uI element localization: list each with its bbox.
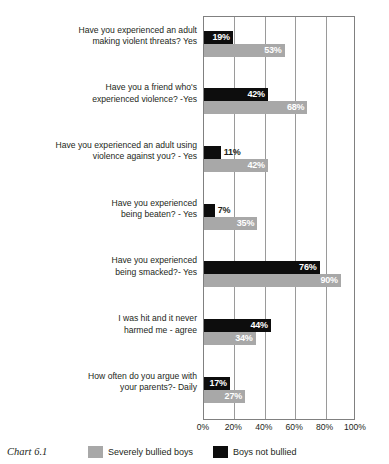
bar-dark[interactable]: 76% [204,261,320,274]
bar-wrapper-dark: 19% [204,31,354,44]
legend-swatch-light [88,446,103,458]
bar-light[interactable]: 34% [204,332,256,345]
bar-value-label: 76% [299,261,316,274]
category-label: Have you experienced an adult usingviole… [17,140,197,163]
bar-value-label: 42% [247,159,264,172]
x-tick-label-80pct: 80% [316,422,333,432]
bar-group: 76%90% [204,248,354,306]
bar-wrapper-light: 34% [204,332,354,345]
x-tick-label-20pct: 20% [225,422,242,432]
category-label-line-1: I was hit and it never [17,313,197,325]
category-label-line-2: experienced violence? -Yes [17,94,197,106]
category-label: Have you experienced an adultmaking viol… [17,25,197,48]
category-label: Have you experiencedbeing beaten? - Yes [17,198,197,221]
bar-light[interactable]: 42% [204,159,268,172]
x-tick-label-100pct: 100% [344,422,366,432]
bar-value-label: 7% [218,204,231,217]
chart-footer: Chart 6.1 Severely bullied boys Boys not… [0,443,389,464]
category-label-line-2: harmed me - agree [17,325,197,337]
bar-dark[interactable]: 7% [204,204,215,217]
bar-wrapper-dark: 42% [204,88,354,101]
bar-light[interactable]: 35% [204,217,257,230]
bar-value-label: 11% [224,146,241,159]
bar-wrapper-light: 42% [204,159,354,172]
bar-value-label: 68% [287,101,304,114]
bar-light[interactable]: 90% [204,274,341,287]
category-label: How often do you argue withyour parents?… [17,371,197,394]
category-label-line-1: Have you experienced an adult using [17,140,197,152]
bar-dark[interactable]: 44% [204,319,271,332]
bar-wrapper-light: 35% [204,217,354,230]
x-axis: 0%20%40%60%80%100% [203,422,355,436]
bar-dark[interactable]: 19% [204,31,233,44]
x-tick-label-0pct: 0% [197,422,209,432]
category-label-line-2: being beaten? - Yes [17,209,197,221]
bar-value-label: 35% [237,217,254,230]
bar-dark[interactable]: 11% [204,146,221,159]
category-label-line-2: your parents?- Daily [17,382,197,394]
bar-group: 42%68% [204,75,354,133]
bar-value-label: 42% [247,88,264,101]
legend-entry-severely-bullied-boys: Severely bullied boys [88,445,193,458]
bar-wrapper-light: 53% [204,44,354,57]
plot-area: 19%53%42%68%11%42%7%35%76%90%44%34%17%27… [203,16,355,420]
category-label: Have you a friend who'sexperienced viole… [17,82,197,105]
bar-light[interactable]: 68% [204,101,307,114]
bar-value-label: 90% [320,274,337,287]
legend-label-boys-not-bullied: Boys not bullied [233,447,297,457]
chart-caption: Chart 6.1 [7,446,47,457]
bar-wrapper-dark: 76% [204,261,354,274]
bar-light[interactable]: 53% [204,44,285,57]
bar-group: 17%27% [204,363,354,421]
bar-group: 19%53% [204,17,354,75]
category-label-line-1: How often do you argue with [17,371,197,383]
bar-value-label: 17% [209,377,226,390]
bar-value-label: 34% [235,332,252,345]
category-label-line-2: being smacked?- Yes [17,267,197,279]
bar-wrapper-dark: 17% [204,377,354,390]
legend-label-severely-bullied-boys: Severely bullied boys [108,447,193,457]
bar-group: 11%42% [204,132,354,190]
bar-wrapper-light: 90% [204,274,354,287]
bar-wrapper-dark: 11% [204,146,354,159]
x-tick-label-40pct: 40% [255,422,272,432]
bar-value-label: 44% [250,319,267,332]
bar-wrapper-light: 68% [204,101,354,114]
bar-value-label: 53% [264,44,281,57]
chart-figure: Have you experienced an adultmaking viol… [0,0,389,464]
category-label-line-1: Have you experienced [17,198,197,210]
bar-wrapper-light: 27% [204,390,354,403]
bar-group: 44%34% [204,306,354,364]
category-label-line-1: Have you a friend who's [17,82,197,94]
category-label: Have you experiencedbeing smacked?- Yes [17,255,197,278]
bar-value-label: 27% [225,390,242,403]
bar-dark[interactable]: 42% [204,88,268,101]
category-label-line-1: Have you experienced an adult [17,25,197,37]
bar-group: 7%35% [204,190,354,248]
bar-value-label: 19% [212,31,229,44]
category-label: I was hit and it neverharmed me - agree [17,313,197,336]
bar-dark[interactable]: 17% [204,377,230,390]
bar-wrapper-dark: 44% [204,319,354,332]
category-label-line-1: Have you experienced [17,255,197,267]
x-tick-label-60pct: 60% [286,422,303,432]
legend-entry-boys-not-bullied: Boys not bullied [213,445,297,458]
legend-swatch-dark [213,446,228,458]
bar-light[interactable]: 27% [204,390,245,403]
category-label-line-2: making violent threats? Yes [17,36,197,48]
bar-wrapper-dark: 7% [204,204,354,217]
category-label-line-2: violence against you? - Yes [17,151,197,163]
